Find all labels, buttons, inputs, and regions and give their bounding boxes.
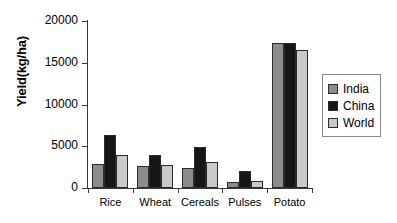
x-tick xyxy=(222,188,223,193)
china-swatch-icon xyxy=(328,101,338,111)
x-axis-label-pulses: Pulses xyxy=(222,196,267,208)
x-axis-label-wheat: Wheat xyxy=(133,196,178,208)
y-tick-label: 5000 xyxy=(26,138,78,152)
bar-china-cereals xyxy=(194,147,206,188)
legend: India China World xyxy=(322,74,381,137)
legend-label-china: China xyxy=(343,99,374,113)
bar-group xyxy=(222,21,267,188)
bar-group xyxy=(267,21,312,188)
legend-item-world: World xyxy=(328,114,374,131)
bar-china-pulses xyxy=(239,171,251,188)
bar-china-rice xyxy=(104,135,116,188)
bar-china-wheat xyxy=(149,155,161,188)
bar-india-rice xyxy=(92,164,104,188)
bar-group xyxy=(88,21,133,188)
bar-world-rice xyxy=(116,155,128,188)
world-swatch-icon xyxy=(328,118,338,128)
x-axis-label-rice: Rice xyxy=(88,196,133,208)
bar-group xyxy=(178,21,223,188)
legend-label-world: World xyxy=(343,116,374,130)
bar-india-potato xyxy=(272,43,284,188)
bar-india-wheat xyxy=(137,166,149,188)
bar-world-potato xyxy=(296,50,308,188)
legend-item-india: India xyxy=(328,80,374,97)
legend-label-india: India xyxy=(343,82,369,96)
bar-group xyxy=(133,21,178,188)
x-tick xyxy=(133,188,134,193)
x-tick xyxy=(312,188,313,193)
bar-india-pulses xyxy=(227,182,239,188)
x-axis-line xyxy=(87,188,313,189)
y-tick-label: 0 xyxy=(26,180,78,194)
bar-india-cereals xyxy=(182,168,194,188)
legend-item-china: China xyxy=(328,97,374,114)
bar-world-cereals xyxy=(206,162,218,188)
x-tick xyxy=(178,188,179,193)
bar-china-potato xyxy=(284,43,296,188)
x-axis-label-potato: Potato xyxy=(267,196,312,208)
bar-world-pulses xyxy=(251,181,263,189)
india-swatch-icon xyxy=(328,84,338,94)
bar-world-wheat xyxy=(161,165,173,188)
x-tick xyxy=(267,188,268,193)
x-tick xyxy=(88,188,89,193)
y-tick-label: 20000 xyxy=(26,13,78,27)
y-tick-label: 15000 xyxy=(26,55,78,69)
bar-chart: Yield(kg/ha) 05000100001500020000 RiceWh… xyxy=(0,0,397,223)
y-tick-label: 10000 xyxy=(26,97,78,111)
x-axis-label-cereals: Cereals xyxy=(178,196,223,208)
